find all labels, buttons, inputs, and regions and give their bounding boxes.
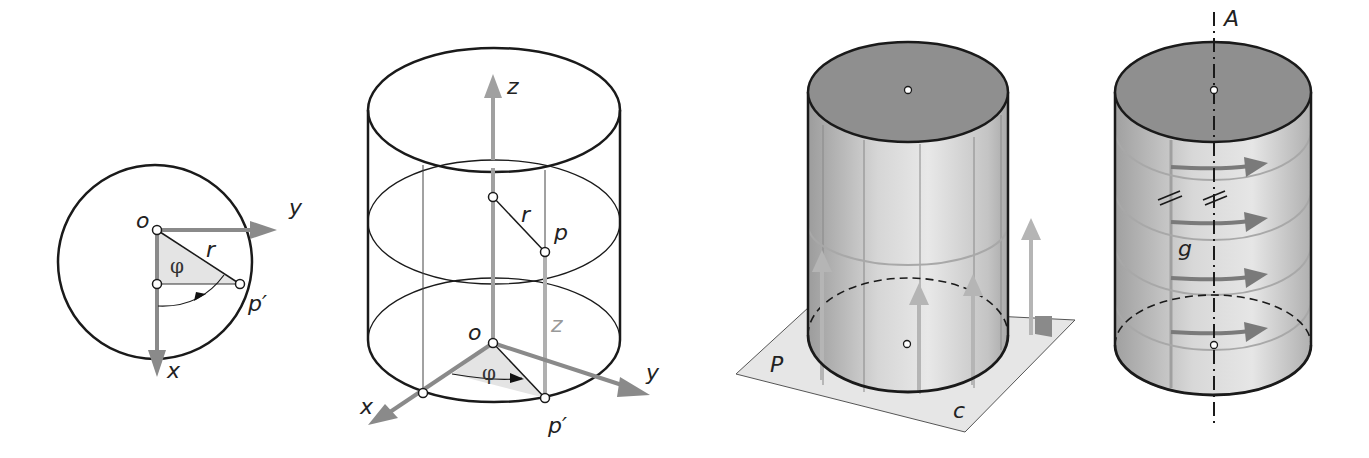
label-curve-c: c: [953, 398, 965, 423]
label-z-axis: z: [506, 74, 519, 99]
rotation-arrow: [1171, 331, 1250, 333]
label-phi: φ: [170, 254, 184, 278]
label-x: x: [166, 358, 181, 383]
x-intersect-point: [419, 389, 428, 398]
label-p: p: [553, 220, 568, 245]
label-y: y: [645, 360, 660, 385]
center-point: [489, 193, 498, 202]
label-x: x: [359, 394, 374, 419]
figure-cylinder-coordinates: z r p z o φ x y p′: [359, 48, 660, 438]
y-axis-arrow-icon: [250, 221, 277, 239]
label-r: r: [521, 202, 532, 227]
label-p-prime: p′: [547, 413, 567, 438]
label-generator-g: g: [1178, 236, 1192, 261]
label-origin: o: [468, 320, 481, 345]
point-p: [541, 248, 550, 257]
base-center-point: [904, 341, 911, 348]
arrow-head-icon: [1021, 218, 1041, 240]
radius-line: [493, 197, 545, 252]
top-center-point: [905, 87, 912, 94]
label-origin: o: [136, 208, 149, 233]
origin-point: [489, 339, 498, 348]
label-z-height: z: [550, 312, 563, 337]
diagram-canvas: o y x r φ p′: [0, 0, 1369, 458]
top-center-point: [1211, 87, 1218, 94]
origin-point: [153, 226, 162, 235]
point-p-prime: [236, 280, 245, 289]
figure-cylinder-rotation-axis: A g: [1115, 6, 1311, 425]
z-axis-arrow-icon: [484, 74, 502, 98]
label-y: y: [288, 195, 303, 220]
rotation-arrow: [1171, 221, 1250, 223]
point-p-prime: [541, 394, 550, 403]
right-angle-marker: [1035, 316, 1052, 337]
label-p-prime: p′: [247, 291, 267, 316]
figure-cylinder-on-plane: P c: [736, 42, 1075, 432]
rotation-arrow: [1171, 277, 1250, 279]
figure-polar-circle: o y x r φ p′: [58, 165, 303, 383]
label-plane-P: P: [770, 352, 784, 377]
angle-arrow-icon: [194, 292, 206, 301]
label-r: r: [206, 237, 217, 262]
rotation-arrow: [1171, 166, 1250, 168]
angle-triangle: [452, 343, 545, 398]
label-phi: φ: [482, 361, 496, 385]
foot-point: [153, 280, 162, 289]
label-axis-A: A: [1222, 6, 1239, 31]
x-axis-arrow-icon: [148, 350, 166, 377]
base-center-point: [1211, 342, 1218, 349]
